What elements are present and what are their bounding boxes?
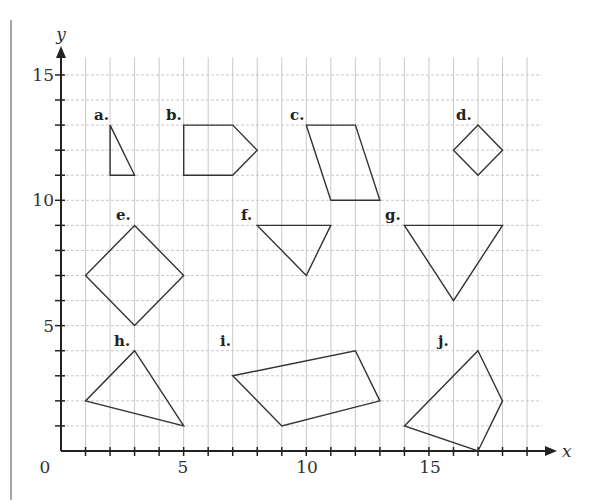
shape-label-i: i. [220,332,231,350]
shape-label-c: c. [290,106,304,124]
shape-label-a: a. [94,106,109,124]
plot-canvas: 5 10 15 15 10 5 0 x y a. b. c. d. e. f. … [0,0,593,503]
coordinate-figure: 5 10 15 15 10 5 0 x y a. b. c. d. e. f. … [0,0,593,503]
x-axis-name: x [562,441,572,461]
y-tick-label-10: 10 [32,190,54,210]
shape-label-g: g. [385,206,401,224]
y-axis-arrow-icon [56,46,66,58]
shape-c [306,125,380,200]
origin-label: 0 [40,457,51,477]
x-tick-label-10: 10 [296,457,318,477]
y-axis-name: y [55,24,66,44]
shape-label-d: d. [456,106,472,124]
x-tick-label-15: 15 [419,457,441,477]
x-tick-label-5: 5 [178,457,189,477]
x-axis-arrow-icon [545,446,557,456]
shape-label-h: h. [114,332,130,350]
y-tick-label-15: 15 [32,65,54,85]
shape-label-f: f. [241,206,252,224]
shapes [86,125,503,451]
shape-label-e: e. [116,206,131,224]
shape-label-b: b. [166,106,182,124]
y-tick-label-5: 5 [43,316,54,336]
shape-label-j: j. [436,332,449,350]
